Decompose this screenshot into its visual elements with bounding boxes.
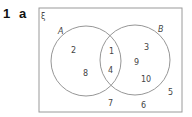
element-intersection: 1 — [109, 47, 114, 56]
element-outside: 5 — [168, 88, 173, 97]
element-b-only: 3 — [144, 43, 149, 52]
element-b-only: 9 — [134, 58, 139, 67]
element-a-only: 8 — [83, 69, 88, 78]
element-outside: 6 — [141, 101, 146, 110]
element-outside: 7 — [108, 99, 113, 108]
universal-set-symbol: ξ — [41, 12, 45, 21]
universal-set-box — [39, 8, 182, 112]
element-a-only: 2 — [71, 46, 76, 55]
element-b-only: 10 — [141, 75, 151, 84]
venn-diagram: ξ A B 2 8 1 4 3 9 10 7 6 5 — [0, 0, 192, 117]
set-b-label: B — [158, 25, 164, 34]
element-intersection: 4 — [108, 66, 113, 75]
set-a-label: A — [57, 27, 63, 36]
